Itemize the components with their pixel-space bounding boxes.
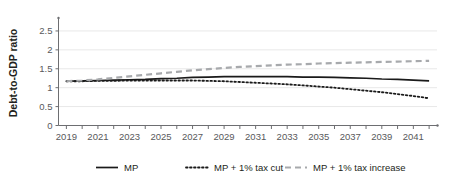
x-axis: 2019202120232025202720292031203320352037… <box>56 124 439 141</box>
gridlines <box>59 31 438 107</box>
x-tick-label: 2031 <box>245 131 266 142</box>
x-tick-label: 2019 <box>56 131 77 142</box>
y-axis-cap <box>57 17 59 19</box>
x-tick-label: 2037 <box>340 131 361 142</box>
chart-legend: MPMP + 1% tax cutMP + 1% tax increase <box>96 162 406 173</box>
debt-to-gdp-ratio-chart: 00.511.522.5 201920212023202520272029203… <box>0 0 450 188</box>
x-tick-label: 2027 <box>182 131 203 142</box>
y-tick-label: 0.5 <box>39 101 52 112</box>
x-tick-label: 2025 <box>150 131 171 142</box>
y-axis-label-text: Debt-to-GDP ratio <box>7 29 19 117</box>
series-line-mp-1-tax-cut <box>66 81 429 99</box>
legend-key-mp-1-tax-cut-label: MP + 1% tax cut <box>214 162 284 173</box>
y-axis: 00.511.522.5 <box>39 17 59 131</box>
y-tick-label: 0 <box>47 120 52 131</box>
x-tick-label: 2033 <box>277 131 298 142</box>
x-tick-label: 2029 <box>214 131 235 142</box>
y-tick-label: 2.5 <box>39 25 52 36</box>
x-tick-label: 2021 <box>87 131 108 142</box>
x-tick-label: 2035 <box>308 131 329 142</box>
chart-canvas: 00.511.522.5 201920212023202520272029203… <box>0 0 450 188</box>
x-tick-label: 2023 <box>119 131 140 142</box>
y-axis-label: Debt-to-GDP ratio <box>7 29 19 117</box>
x-tick-label: 2041 <box>403 131 424 142</box>
legend-key-mp-1-tax-increase-label: MP + 1% tax increase <box>313 162 406 173</box>
x-tick-label: 2039 <box>371 131 392 142</box>
data-series <box>66 61 429 98</box>
y-tick-label: 2 <box>47 44 52 55</box>
y-tick-label: 1 <box>47 82 52 93</box>
y-tick-label: 1.5 <box>39 63 52 74</box>
x-axis-cap <box>436 124 438 126</box>
legend-key-mp-label: MP <box>124 162 138 173</box>
